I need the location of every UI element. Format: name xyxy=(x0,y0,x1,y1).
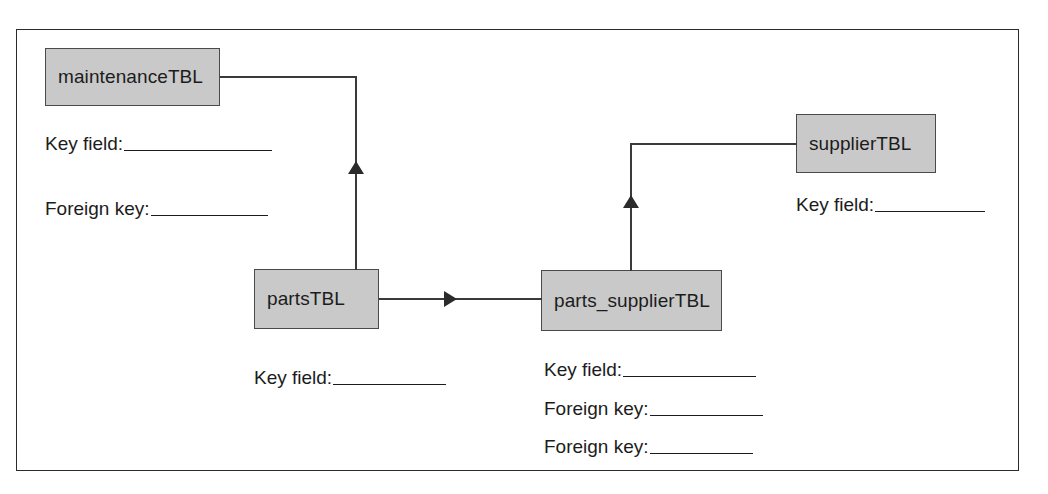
field-parts-supplier-foreign-key-2: Foreign key: xyxy=(544,437,753,456)
connector-parts-supplier-to-supplier-horizontal xyxy=(630,143,797,145)
diagram-canvas: maintenanceTBL Key field: Foreign key: p… xyxy=(0,0,1048,494)
field-blank-line[interactable] xyxy=(333,383,446,385)
entity-box-parts[interactable]: partsTBL xyxy=(254,269,379,329)
diagram-frame: maintenanceTBL Key field: Foreign key: p… xyxy=(16,29,1019,471)
field-parts-key-field: Key field: xyxy=(254,368,446,387)
entity-box-parts-supplier[interactable]: parts_supplierTBL xyxy=(541,270,722,331)
field-maintenance-key-field: Key field: xyxy=(45,134,272,153)
entity-label-parts-supplier: parts_supplierTBL xyxy=(542,290,710,312)
field-parts-supplier-foreign-key-1: Foreign key: xyxy=(544,399,763,418)
field-blank-line[interactable] xyxy=(650,452,753,454)
field-maintenance-foreign-key: Foreign key: xyxy=(45,199,268,218)
entity-label-supplier: supplierTBL xyxy=(797,133,911,155)
field-label: Foreign key: xyxy=(45,199,150,218)
connector-parts-to-maintenance-horizontal xyxy=(220,76,357,78)
field-label: Key field: xyxy=(544,360,622,379)
field-label: Key field: xyxy=(254,368,332,387)
entity-box-supplier[interactable]: supplierTBL xyxy=(796,114,936,173)
connector-parts-to-parts-supplier-horizontal xyxy=(379,298,542,300)
arrowhead-up-icon-parts-supplier-to-supplier xyxy=(623,195,639,208)
field-blank-line[interactable] xyxy=(151,214,268,216)
field-blank-line[interactable] xyxy=(875,210,985,212)
arrowhead-right-icon-parts-to-parts-supplier xyxy=(444,291,457,307)
field-blank-line[interactable] xyxy=(650,414,763,416)
field-parts-supplier-key-field: Key field: xyxy=(544,360,756,379)
field-blank-line[interactable] xyxy=(124,149,272,151)
field-label: Key field: xyxy=(45,134,123,153)
field-supplier-key-field: Key field: xyxy=(796,195,985,214)
entity-box-maintenance[interactable]: maintenanceTBL xyxy=(45,48,220,106)
entity-label-maintenance: maintenanceTBL xyxy=(46,66,203,88)
field-label: Key field: xyxy=(796,195,874,214)
field-label: Foreign key: xyxy=(544,399,649,418)
arrowhead-up-icon-parts-to-maintenance xyxy=(348,161,364,174)
field-label: Foreign key: xyxy=(544,437,649,456)
field-blank-line[interactable] xyxy=(623,375,756,377)
entity-label-parts: partsTBL xyxy=(255,288,345,310)
